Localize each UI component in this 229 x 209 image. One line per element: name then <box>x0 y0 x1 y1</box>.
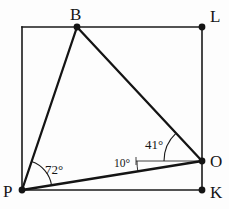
vertex-label-p: P <box>3 183 12 200</box>
angle-label-72: 72° <box>45 163 63 176</box>
angle-label-41: 41° <box>145 138 163 151</box>
vertex-label-l: L <box>210 8 220 25</box>
vertex-dot-b <box>74 24 81 31</box>
vertex-label-o: O <box>210 153 222 170</box>
vertex-dot-l <box>199 24 206 31</box>
angle-label-10: 10° <box>114 158 130 170</box>
segment-b-o <box>77 27 202 161</box>
vertex-dot-o <box>199 158 206 165</box>
vertex-label-b: B <box>70 6 81 23</box>
vertex-dot-k <box>199 187 206 194</box>
geometry-diagram: B L O K P 72° 41° 10° <box>0 0 229 209</box>
angle-arc-41 <box>164 133 176 161</box>
angle-arc-10 <box>137 161 138 171</box>
vertex-label-k: K <box>210 184 222 201</box>
geometry-canvas <box>0 0 229 209</box>
vertex-dot-p <box>19 187 26 194</box>
